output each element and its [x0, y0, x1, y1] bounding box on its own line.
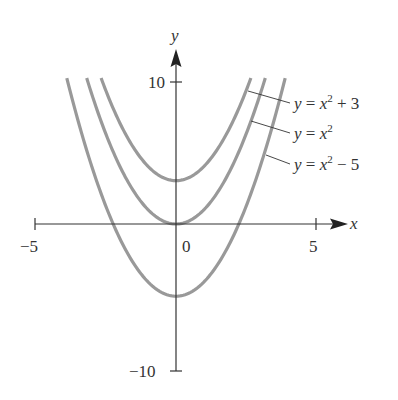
tick-label-y-10: 10	[148, 73, 165, 92]
tick-label-x-0: 0	[182, 237, 191, 256]
parabola-chart: −5 0 5 10 −10 x y y = x2 + 3 y = x2 y = …	[0, 0, 398, 400]
tick-label-x-neg5: −5	[20, 237, 38, 256]
tick-label-y-neg10: −10	[129, 362, 156, 381]
tick-label-x-5: 5	[309, 237, 318, 256]
y-axis-label: y	[169, 26, 179, 45]
leader-line-series-0	[248, 91, 290, 103]
series-label-1: y = x2	[292, 122, 333, 143]
leader-line-series-2	[266, 155, 290, 164]
series-label-0: y = x2 + 3	[292, 92, 359, 113]
x-axis-label: x	[349, 214, 358, 233]
series-label-2: y = x2 − 5	[292, 153, 359, 174]
